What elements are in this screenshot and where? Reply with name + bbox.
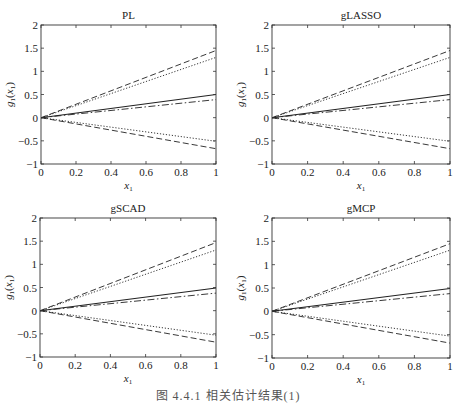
y-tick-label: 1 [33, 65, 39, 77]
x-tick-label: 0.4 [336, 166, 350, 178]
series-solid [272, 289, 450, 312]
series-upper-dashed [40, 243, 216, 311]
axes-frame [41, 25, 216, 164]
series-solid [40, 288, 216, 311]
y-tick-label: 1.5 [255, 42, 269, 54]
y-tick-label: −0.5 [249, 135, 269, 147]
y-tick-label: 1.5 [24, 42, 38, 54]
series-upper-dotted [272, 57, 450, 117]
y-tick-label: 0.5 [255, 89, 269, 101]
x-tick-label: 0.2 [69, 166, 83, 178]
y-axis-label: g1(x1) [234, 275, 248, 300]
chart-title: PL [122, 9, 135, 21]
axes-frame [272, 25, 450, 164]
chart-glasso: 00.20.40.60.81−1−0.500.511.52gLASSOx1g1(… [234, 9, 453, 193]
y-tick-label: −1 [257, 352, 269, 364]
y-tick-label: 0.5 [23, 282, 37, 294]
series-upper-dotted [40, 250, 216, 311]
y-tick-label: −0.5 [18, 135, 38, 147]
series-lower-dashed [40, 311, 216, 343]
y-tick-label: 1 [264, 259, 270, 271]
y-tick-label: −0.5 [249, 329, 269, 341]
x-axis-label: x1 [356, 373, 366, 387]
x-tick-label: 0 [269, 166, 275, 178]
x-tick-label: 0.4 [104, 359, 118, 371]
x-tick-label: 0.6 [372, 166, 386, 178]
series-lower-dotted [41, 118, 216, 142]
series-lower-dashed [41, 118, 216, 149]
chart-pl: 00.20.40.60.81−1−0.500.511.52PLx1g1(x1) [3, 9, 219, 193]
series-upper-dotted [272, 250, 450, 311]
series-solid [41, 95, 216, 118]
y-tick-label: −1 [257, 158, 269, 170]
series-lower-dotted [272, 118, 450, 142]
series-lower-dashed [272, 118, 450, 149]
series-upper-dashed [41, 51, 216, 118]
y-tick-label: 1.5 [255, 235, 269, 247]
chart-title: gSCAD [111, 202, 146, 214]
y-tick-label: 2 [32, 212, 38, 224]
y-axis-label: g1(x1) [3, 82, 17, 107]
x-tick-label: 1 [447, 360, 453, 372]
chart-title: gLASSO [341, 9, 381, 21]
x-tick-label: 1 [447, 166, 453, 178]
series-upper-dashed [272, 51, 450, 118]
figure-canvas: 00.20.40.60.81−1−0.500.511.52PLx1g1(x1)0… [0, 0, 456, 407]
y-tick-label: 0 [32, 305, 38, 317]
x-axis-label: x1 [123, 179, 133, 193]
x-tick-label: 0.2 [301, 360, 315, 372]
chart-title: gMCP [347, 202, 376, 214]
x-tick-label: 0.8 [408, 166, 422, 178]
figure-caption: 图 4.4.1 相关估计结果(1) [0, 386, 456, 404]
series-lower-dotted [40, 311, 216, 336]
y-tick-label: 0 [264, 112, 270, 124]
chart-gscad: 00.20.40.60.81−1−0.500.511.52gSCADx1g1(x… [2, 202, 219, 386]
x-tick-label: 0.6 [372, 360, 386, 372]
x-tick-label: 0.6 [139, 359, 153, 371]
x-tick-label: 0.6 [139, 166, 153, 178]
x-tick-label: 0 [37, 359, 43, 371]
x-tick-label: 0.2 [301, 166, 315, 178]
y-tick-label: 2 [264, 19, 270, 31]
x-tick-label: 0.8 [174, 166, 188, 178]
chart-gmcp: 00.20.40.60.81−1−0.500.511.52gMCPx1g1(x1… [234, 202, 453, 387]
x-tick-label: 0.4 [104, 166, 118, 178]
y-tick-label: 2 [264, 212, 270, 224]
x-tick-label: 0.8 [174, 359, 188, 371]
y-tick-label: 0 [264, 305, 270, 317]
series-upper-dashed [272, 244, 450, 312]
y-tick-label: 0.5 [24, 89, 38, 101]
x-tick-label: 0.4 [336, 360, 350, 372]
x-axis-label: x1 [356, 179, 366, 193]
y-tick-label: 0.5 [255, 282, 269, 294]
x-tick-label: 1 [213, 359, 219, 371]
y-tick-label: −1 [25, 351, 37, 363]
series-lower-dotted [272, 311, 450, 336]
x-tick-label: 0 [38, 166, 44, 178]
y-tick-label: −1 [26, 158, 38, 170]
series-solid [272, 95, 450, 118]
x-tick-label: 0.2 [68, 359, 82, 371]
x-tick-label: 0.8 [408, 360, 422, 372]
x-axis-label: x1 [123, 372, 133, 386]
series-lower-dashed [272, 311, 450, 343]
y-tick-label: 1 [264, 65, 270, 77]
axes-frame [272, 218, 450, 358]
x-tick-label: 1 [213, 166, 219, 178]
x-tick-label: 0 [269, 360, 275, 372]
y-tick-label: 1 [32, 258, 38, 270]
y-axis-label: g1(x1) [234, 82, 248, 107]
y-axis-label: g1(x1) [2, 275, 16, 300]
y-tick-label: 0 [33, 112, 39, 124]
y-tick-label: 2 [33, 19, 39, 31]
y-tick-label: −0.5 [17, 328, 37, 340]
axes-frame [40, 218, 216, 357]
y-tick-label: 1.5 [23, 235, 37, 247]
